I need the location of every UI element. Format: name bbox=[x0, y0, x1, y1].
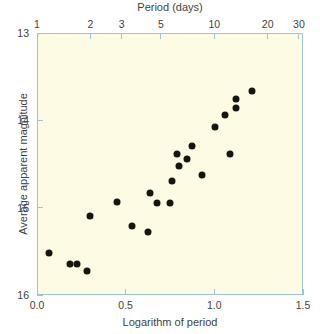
data-point bbox=[174, 151, 181, 158]
x-tick-label-1: 0.5 bbox=[118, 300, 133, 311]
x-axis-title: Logarithm of period bbox=[123, 317, 218, 328]
data-point bbox=[113, 199, 120, 206]
top-tick-6 bbox=[298, 33, 299, 39]
data-point bbox=[222, 112, 229, 119]
top-tick-label-6: 30 bbox=[293, 19, 305, 30]
plot-area bbox=[37, 33, 303, 295]
top-tick-label-5: 20 bbox=[262, 19, 274, 30]
top-tick-label-2: 3 bbox=[119, 19, 125, 30]
y-tick-label-2: 15 bbox=[17, 202, 29, 213]
y-tick-1 bbox=[37, 120, 43, 121]
data-point bbox=[232, 96, 239, 103]
top-tick-label-0: 1 bbox=[34, 19, 40, 30]
top-tick-label-4: 10 bbox=[208, 19, 220, 30]
x-tick-label-0: 0.0 bbox=[30, 300, 45, 311]
top-axis-title: Period (days) bbox=[137, 2, 202, 13]
data-point bbox=[46, 250, 53, 257]
top-tick-5 bbox=[267, 33, 268, 39]
y-tick-0 bbox=[37, 33, 43, 34]
data-point bbox=[154, 200, 161, 207]
data-point bbox=[175, 162, 182, 169]
data-point bbox=[87, 213, 94, 220]
y-tick-3 bbox=[37, 295, 43, 296]
top-tick-0 bbox=[37, 33, 38, 39]
y-axis-title: Average apparent magnitude bbox=[18, 79, 29, 249]
x-tick-label-2: 1.0 bbox=[207, 300, 222, 311]
data-point bbox=[84, 268, 91, 275]
y-tick-label-1: 14 bbox=[17, 115, 29, 126]
top-tick-3 bbox=[160, 33, 161, 39]
data-point bbox=[232, 105, 239, 112]
top-tick-4 bbox=[214, 33, 215, 39]
data-point bbox=[74, 260, 81, 267]
top-tick-label-3: 5 bbox=[158, 19, 164, 30]
data-point bbox=[184, 155, 191, 162]
data-point bbox=[145, 229, 152, 236]
data-point bbox=[129, 223, 136, 230]
y-tick-2 bbox=[37, 207, 43, 208]
data-point bbox=[248, 87, 255, 94]
top-tick-1 bbox=[90, 33, 91, 39]
data-point bbox=[167, 200, 174, 207]
y-tick-label-0: 13 bbox=[17, 28, 29, 39]
top-tick-label-1: 2 bbox=[87, 19, 93, 30]
x-tick-label-3: 1.5 bbox=[296, 300, 311, 311]
top-tick-2 bbox=[121, 33, 122, 39]
data-point bbox=[66, 260, 73, 267]
x-tick-3 bbox=[303, 289, 304, 295]
data-point bbox=[188, 142, 195, 149]
data-point bbox=[146, 189, 153, 196]
data-point bbox=[227, 151, 234, 158]
y-tick-label-3: 16 bbox=[17, 290, 29, 301]
x-tick-2 bbox=[214, 289, 215, 295]
x-tick-1 bbox=[125, 289, 126, 295]
scatter-plot-figure: Period (days) Logarithm of period Averag… bbox=[0, 0, 320, 334]
data-point bbox=[169, 178, 176, 185]
data-point bbox=[198, 172, 205, 179]
data-point bbox=[211, 124, 218, 131]
